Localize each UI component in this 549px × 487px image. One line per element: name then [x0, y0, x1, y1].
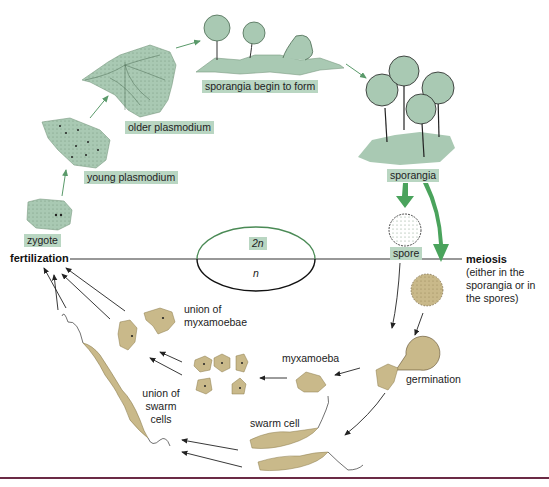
label-myxamoeba: myxamoeba: [282, 352, 339, 365]
arrow-myxunion-to-fert-2: [62, 274, 110, 319]
label-union-myxamoebae: union of myxamoebae: [184, 303, 264, 329]
label-ploidy-2n: 2n: [249, 237, 267, 250]
sporangia-illustration: [358, 56, 455, 165]
myxamoeba-illustration: [296, 372, 326, 392]
arrow-young-to-older: [90, 96, 108, 118]
label-swarm-cell: swarm cell: [250, 417, 300, 430]
label-older-plasmodium: older plasmodium: [125, 121, 214, 134]
label-meiosis: meiosis: [466, 253, 507, 266]
arrow-zygote-to-young: [62, 170, 66, 196]
arrow-group-to-union-1: [160, 352, 182, 362]
union-myxamoebae-illustration: [118, 308, 175, 350]
young-plasmodium-illustration: [42, 118, 110, 168]
haploid-spore-illustration: [411, 274, 443, 306]
union-swarm-cells-illustration: [62, 314, 170, 446]
zygote-illustration: [27, 199, 72, 230]
life-cycle-diagram: zygote young plasmodium older plasmodium…: [0, 0, 549, 487]
label-fertilization: fertilization: [10, 252, 69, 265]
label-union-swarm-cells: union of swarm cells: [138, 387, 184, 426]
label-spore: spore: [390, 247, 422, 260]
label-ploidy-n: n: [253, 267, 259, 280]
arrow-forming-to-sporangia: [346, 64, 366, 78]
arrow-spore-to-germination: [392, 263, 400, 328]
myxamoebae-group-illustration: [194, 354, 248, 394]
arrow-myxunion-to-fert-1: [66, 268, 125, 311]
label-germination: germination: [406, 373, 461, 386]
arrow-older-to-forming: [176, 41, 200, 48]
label-sporangia: sporangia: [387, 169, 439, 182]
label-young-plasmodium: young plasmodium: [84, 171, 178, 184]
label-zygote: zygote: [24, 234, 61, 247]
arrow-germination-to-myxamoeba: [335, 368, 360, 375]
arrow-swarm-to-union-1: [182, 440, 238, 450]
sporangia-forming-illustration: [196, 15, 344, 75]
older-plasmodium-illustration: [82, 45, 176, 117]
label-sporangia-begin: sporangia begin to form: [202, 80, 318, 93]
arrow-swarm-to-union-2: [182, 452, 242, 467]
arrow-swarmunion-to-fert-1: [44, 268, 66, 308]
label-meiosis-note: (either in the sporangia or in the spore…: [466, 266, 548, 305]
swarm-cells-illustration: [250, 396, 363, 471]
spore-illustration: [389, 214, 421, 246]
arrow-haploid-spore-to-germination: [415, 313, 423, 335]
arrow-germination-to-swarm: [345, 393, 385, 435]
arrow-group-to-union-2: [150, 358, 182, 375]
